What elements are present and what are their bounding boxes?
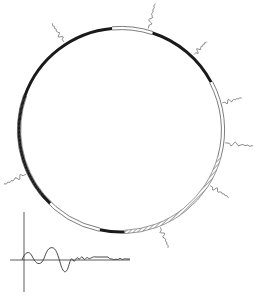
waveform-marker-right-lower — [210, 186, 228, 198]
waveform-marker-upper-right — [194, 42, 207, 55]
circular-map-diagram — [0, 0, 253, 299]
waveform-marker-right-upper — [222, 98, 241, 104]
waveform-marker-bottom — [160, 227, 168, 248]
segment-hatched-lower-right — [17, 95, 44, 197]
inset-waveform-plot — [10, 212, 130, 292]
map-ring — [17, 26, 224, 233]
segment-solid-top — [153, 33, 212, 82]
segment-hatched-right-upper — [125, 156, 222, 234]
waveform-marker-right — [225, 142, 253, 147]
waveform-marker-left — [4, 174, 26, 184]
waveform-markers — [4, 4, 253, 248]
segment-double-upper-left — [112, 26, 153, 34]
segment-double-upper-right — [210, 81, 225, 156]
waveform-marker-upper-left — [52, 23, 64, 42]
segment-solid-left — [19, 28, 112, 203]
segment-solid-right — [100, 230, 125, 232]
waveform-marker-top — [148, 4, 155, 29]
segment-double-lower-right — [42, 195, 100, 232]
